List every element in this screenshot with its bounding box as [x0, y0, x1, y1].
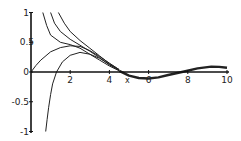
y-tick-label: -1: [20, 127, 29, 137]
series-curve-2: [51, 13, 120, 71]
y-tick-label: 0: [23, 67, 29, 77]
x-tick-label: 6: [146, 75, 152, 85]
series-curve-3: [58, 13, 119, 70]
y-tick-label: 1: [23, 8, 29, 18]
chart: 246810 10.50-0.5-1 x: [0, 0, 241, 141]
x-tick-label: 8: [185, 75, 191, 85]
series-curve-4: [31, 46, 119, 72]
x-axis-label: x: [125, 76, 130, 85]
y-tick-label: 0.5: [20, 37, 34, 47]
x-tick-label: 4: [107, 75, 113, 85]
y-tick-label: -0.5: [11, 97, 29, 107]
x-tick-label: 10: [221, 75, 233, 85]
x-tick-label: 2: [67, 75, 73, 85]
